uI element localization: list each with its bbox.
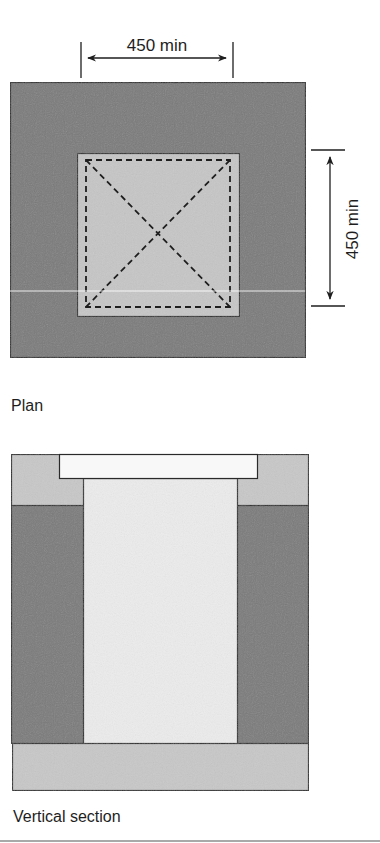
section-shaft: [84, 479, 238, 744]
section-cover: [60, 455, 258, 479]
plan-caption: Plan: [11, 397, 43, 414]
section-wall-left: [12, 506, 84, 744]
dimension-label-width: 450 min: [127, 36, 187, 55]
dimension-vertical: 450 min: [311, 150, 362, 306]
section-wall-right: [238, 506, 309, 744]
plan-view: 450 min 450 min Plan: [0, 36, 362, 414]
section-base-slab: [13, 744, 309, 791]
dimension-horizontal: 450 min: [81, 36, 233, 78]
dimension-label-depth: 450 min: [343, 199, 362, 259]
diagram-canvas: 450 min 450 min Plan: [0, 0, 380, 843]
section-view: Vertical section: [12, 455, 309, 826]
section-caption: Vertical section: [13, 808, 121, 825]
